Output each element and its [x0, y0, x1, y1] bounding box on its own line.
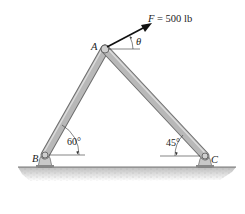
- angle-label-b: 60°: [67, 136, 81, 147]
- force-arrow: [107, 23, 152, 47]
- arc-arrow-b: [76, 151, 79, 155]
- frame-diagram: F = 500 lb θ A B C 60° 45°: [0, 0, 245, 214]
- theta-label: θ: [136, 36, 141, 47]
- pin-c: [202, 153, 208, 159]
- member-ac: [105, 48, 207, 157]
- angle-arc-theta: [130, 37, 133, 49]
- arc-arrow-c: [175, 152, 178, 156]
- ground: [18, 167, 236, 181]
- point-label-b: B: [32, 153, 39, 164]
- point-label-a: A: [90, 41, 98, 52]
- angle-label-c: 45°: [166, 137, 180, 148]
- pin-b: [42, 152, 48, 158]
- force-label: F = 500 lb: [147, 13, 192, 24]
- point-label-c: C: [211, 154, 219, 165]
